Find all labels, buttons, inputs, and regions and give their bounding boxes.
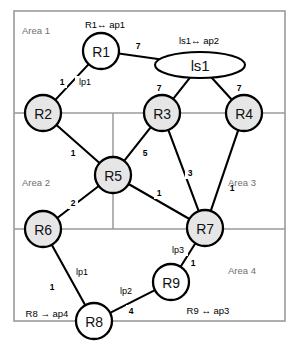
link-weight-ls1-r3: 7: [157, 83, 162, 93]
network-topology-canvas: 7177153112141 lp1lp1lp2lp3 R1ls1R2R3R4R5…: [0, 0, 298, 345]
link-weight-r7-r9: 1: [191, 258, 196, 268]
node-r4-label: R4: [235, 106, 253, 122]
link-weight-r1-r2: 1: [60, 77, 65, 87]
link-ls1-r3: [173, 78, 190, 99]
area-label-area2: Area 2: [22, 177, 50, 188]
link-weight-ls1-r4: 7: [237, 83, 242, 93]
link-weight-r3-r7: 3: [188, 168, 193, 178]
link-weight-r2-r5: 1: [71, 148, 76, 158]
node-r9-label: R9: [162, 275, 180, 291]
node-r7-label: R7: [196, 221, 214, 237]
node-r5-label: R5: [104, 168, 122, 184]
link-weight-r8-r9: 4: [129, 306, 134, 316]
node-ls1-label: ls1: [191, 57, 210, 74]
node-r6-label: R6: [34, 222, 52, 238]
link-r1-ls1: [119, 54, 160, 60]
link-weight-r5-r6: 2: [71, 198, 76, 208]
node-r2-label: R2: [34, 106, 52, 122]
link-weight-r3-r5: 5: [143, 148, 148, 158]
endpoint-label-ls1-ap2: ls1↔ ap2: [179, 35, 219, 46]
area-label-area1: Area 1: [22, 25, 50, 36]
node-r1-label: R1: [92, 44, 110, 60]
area-label-area3: Area 3: [228, 177, 256, 188]
endpoint-label-r1-ap1: R1↔ ap1: [85, 19, 125, 30]
link-weight-r6-r8: 1: [50, 282, 55, 292]
area-label-area4: Area 4: [228, 265, 256, 276]
endpoint-label-r9-ap3: R9 ↔ ap3: [187, 305, 230, 316]
port-label-lp3: lp3: [172, 245, 184, 255]
port-label-lp2: lp2: [120, 286, 132, 296]
port-label-lp1-top: lp1: [79, 77, 91, 87]
link-weight-r1-ls1: 7: [136, 41, 141, 51]
link-weight-r5-r7: 1: [157, 188, 162, 198]
node-r3-label: R3: [153, 106, 171, 122]
port-label-lp1-bottom: lp1: [76, 267, 88, 277]
node-r8-label: R8: [85, 314, 103, 330]
link-r4-r7: [211, 130, 238, 211]
network-diagram: 7177153112141 lp1lp1lp2lp3 R1ls1R2R3R4R5…: [0, 0, 298, 345]
endpoint-label-r8-ap4: R8 → ap4: [26, 308, 69, 319]
link-ls1-r4: [212, 78, 232, 100]
